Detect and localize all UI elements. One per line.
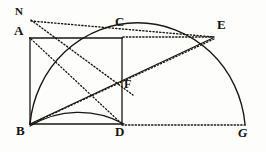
figure-canvas bbox=[0, 0, 266, 152]
point-label-G: G bbox=[238, 126, 247, 139]
point-label-C: C bbox=[115, 15, 124, 28]
dotted-A-D-diagonal bbox=[31, 39, 122, 124]
point-label-B: B bbox=[16, 124, 25, 137]
point-label-E: E bbox=[217, 18, 226, 31]
point-label-D: D bbox=[115, 125, 124, 138]
point-label-N: N bbox=[15, 6, 23, 17]
geometry-figure: N A C E F B D G bbox=[0, 0, 266, 152]
point-label-F: F bbox=[124, 78, 131, 90]
point-label-A: A bbox=[14, 24, 23, 37]
